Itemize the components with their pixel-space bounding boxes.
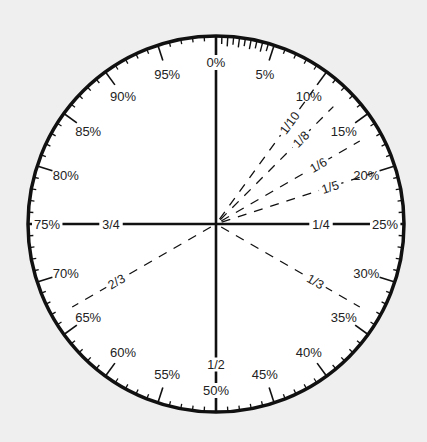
percent-label: 25% [372, 217, 398, 232]
tick-mark [396, 258, 401, 259]
percent-label: 15% [331, 124, 357, 139]
tick-mark [29, 247, 34, 248]
percent-label: 35% [331, 310, 357, 325]
tick-mark [192, 37, 193, 42]
percent-label: 10% [296, 89, 322, 104]
tick-mark [398, 200, 403, 201]
percent-label: 50% [203, 383, 229, 398]
percent-label: 20% [353, 168, 379, 183]
percent-label: 75% [34, 217, 60, 232]
tick-mark [250, 404, 251, 409]
percent-label: 5% [255, 67, 274, 82]
tick-mark [181, 39, 182, 44]
percentage-dial-diagram: 0%5%10%15%20%25%30%35%40%45%50%55%60%65%… [0, 0, 427, 442]
percent-label: 95% [154, 67, 180, 82]
percent-label: 80% [53, 168, 79, 183]
tick-mark [181, 404, 182, 409]
tick-mark [31, 189, 36, 190]
tick-mark [398, 247, 403, 248]
fraction-label: 1/4 [312, 218, 329, 232]
tick-mark [233, 37, 234, 45]
tick-mark [29, 200, 34, 201]
percent-label: 90% [110, 89, 136, 104]
fraction-label: 1/2 [207, 358, 224, 372]
fraction-label: 3/4 [102, 218, 119, 232]
tick-mark [31, 258, 36, 259]
percent-label: 40% [296, 345, 322, 360]
percent-label: 30% [353, 266, 379, 281]
percent-label: 65% [75, 310, 101, 325]
percent-label: 85% [75, 124, 101, 139]
percent-label: 0% [207, 55, 226, 70]
percent-label: 45% [252, 367, 278, 382]
percent-label: 55% [154, 367, 180, 382]
dial-svg: 0%5%10%15%20%25%30%35%40%45%50%55%60%65%… [0, 0, 427, 442]
tick-mark [192, 406, 193, 411]
tick-mark [227, 36, 228, 46]
tick-mark [239, 406, 240, 411]
percent-label: 70% [53, 266, 79, 281]
tick-mark [396, 189, 401, 190]
percent-label: 60% [110, 345, 136, 360]
